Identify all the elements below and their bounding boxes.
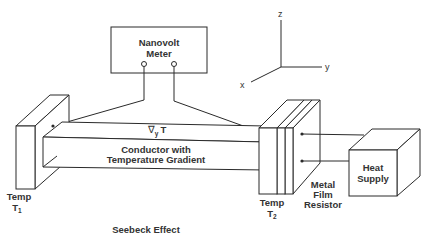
meter-label-line1: Nanovolt [139, 37, 180, 48]
plate-t1-front [16, 126, 35, 189]
plate-t2-label: Temp T2 [260, 197, 285, 220]
x-axis [251, 67, 281, 82]
nanovolt-meter: Nanovolt Meter [111, 27, 207, 73]
resistor-plate-front [285, 128, 293, 194]
t1-label-line1: Temp [7, 191, 32, 202]
middle-plate-front [277, 128, 285, 194]
meter-terminal-right [172, 62, 177, 67]
t2-label-line1: Temp [260, 197, 285, 208]
gradient-subscript: y [155, 130, 159, 138]
coordinate-axes: z y x [240, 9, 330, 90]
x-axis-label: x [240, 80, 245, 90]
diagram-title: Seebeck Effect [112, 224, 180, 235]
wire-junction-left [51, 124, 54, 127]
y-axis-label: y [325, 62, 330, 72]
conductor-bar: ∇yT Conductor with Temperature Gradient [43, 122, 266, 170]
gradient-variable: T [160, 124, 166, 135]
plate-t1-label: Temp T1 [7, 191, 32, 214]
t2-subscript: 2 [273, 213, 277, 220]
plate-t2-front [259, 128, 277, 194]
meter-terminal-left [142, 62, 147, 67]
conductor-label-line2: Temperature Gradient [107, 154, 206, 165]
wire-right [174, 67, 260, 133]
heat-supply: Heat Supply [349, 129, 420, 196]
heat-supply-line1: Heat [363, 162, 384, 173]
meter-label-line2: Meter [146, 48, 172, 59]
t1-subscript: 1 [18, 207, 22, 214]
seebeck-diagram: z y x Nanovolt Meter ∇yT Conductor with … [0, 0, 430, 243]
t1-label-line2: T1 [12, 202, 22, 214]
resistor-label: Metal Film Resistor [304, 179, 342, 210]
resistor-label-line3: Resistor [304, 199, 342, 210]
nabla-symbol: ∇ [147, 124, 155, 135]
z-axis-label: z [278, 9, 283, 19]
heat-supply-line2: Supply [357, 173, 389, 184]
t2-label-line2: T2 [267, 208, 277, 220]
